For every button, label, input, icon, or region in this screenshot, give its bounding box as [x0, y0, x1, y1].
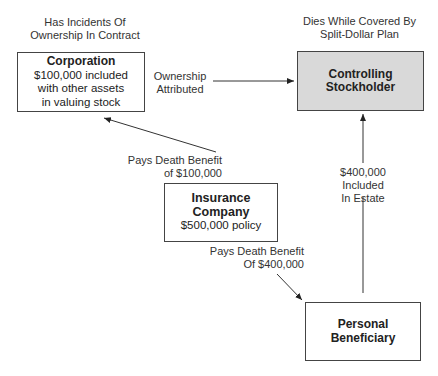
corporation-caption: Has Incidents Of Ownership In Contract: [20, 16, 150, 42]
corporation-node: Corporation $100,000 included with other…: [17, 52, 145, 112]
insurance-company-node: Insurance Company $500,000 policy: [164, 183, 278, 242]
pays-corp-arrow: [104, 118, 216, 152]
pays-corp-label: Pays Death Benefit of $100,000: [112, 154, 222, 180]
pays-beneficiary-label: Pays Death Benefit Of $400,000: [196, 245, 304, 271]
ownership-attributed-label: Ownership Attributed: [150, 70, 210, 96]
included-in-estate-label: $400,000 Included In Estate: [330, 166, 396, 205]
pays-beneficiary-arrow: [277, 274, 302, 300]
controlling-stockholder-node: Controlling Stockholder: [297, 51, 424, 111]
personal-beneficiary-node: Personal Beneficiary: [305, 302, 421, 361]
stockholder-caption: Dies While Covered By Split-Dollar Plan: [292, 15, 427, 41]
